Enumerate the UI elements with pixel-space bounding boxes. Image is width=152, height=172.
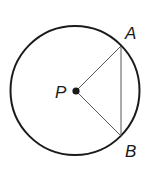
label-p: P [55,83,67,102]
circle-diagram: P A B [0,0,152,172]
center-point-p [72,87,79,94]
label-b: B [125,142,136,161]
diagram-canvas: P A B [0,0,152,172]
label-a: A [124,24,136,43]
segment-pa [76,46,121,91]
segment-pb [76,91,121,136]
